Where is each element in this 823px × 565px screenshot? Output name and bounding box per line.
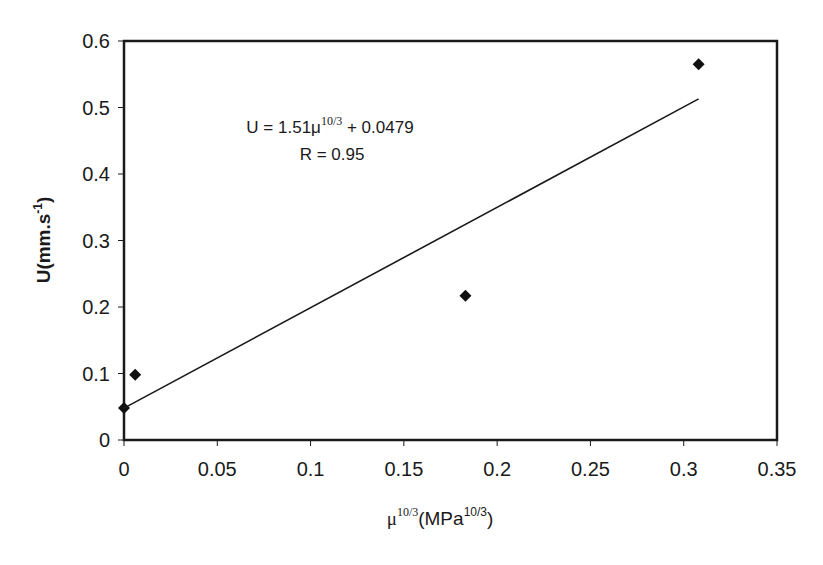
x-tick-label: 0.2: [483, 458, 511, 480]
plot-frame: [124, 41, 777, 440]
x-tick-label: 0.15: [384, 458, 423, 480]
x-tick-label: 0.05: [198, 458, 237, 480]
x-tick-label: 0.35: [758, 458, 797, 480]
y-axis-ticks: 00.10.20.30.40.50.6: [82, 30, 124, 451]
y-tick-label: 0.1: [82, 363, 110, 385]
x-tick-label: 0.1: [297, 458, 325, 480]
x-tick-label: 0: [118, 458, 129, 480]
y-tick-label: 0.4: [82, 163, 110, 185]
trend-line: [124, 99, 699, 408]
y-tick-label: 0.2: [82, 296, 110, 318]
data-point-diamond: [693, 58, 705, 70]
x-tick-label: 0.25: [571, 458, 610, 480]
r-value: R = 0.95: [300, 145, 365, 164]
x-axis-label: μ10/3(MPa10/3): [387, 505, 494, 529]
data-point-diamond: [129, 369, 141, 381]
fit-equation: U = 1.51μ10/3 + 0.0479: [246, 114, 413, 137]
y-tick-label: 0.6: [82, 30, 110, 52]
y-tick-label: 0.3: [82, 230, 110, 252]
data-point-diamond: [459, 290, 471, 302]
plot-area: [118, 41, 777, 440]
x-tick-label: 0.3: [670, 458, 698, 480]
y-tick-label: 0.5: [82, 97, 110, 119]
y-axis-label: U(mm.s-1): [31, 197, 54, 284]
x-axis-ticks: 00.050.10.150.20.250.30.35: [118, 440, 796, 480]
scatter-chart: 00.10.20.30.40.50.6 00.050.10.150.20.250…: [0, 0, 823, 565]
y-tick-label: 0: [99, 429, 110, 451]
